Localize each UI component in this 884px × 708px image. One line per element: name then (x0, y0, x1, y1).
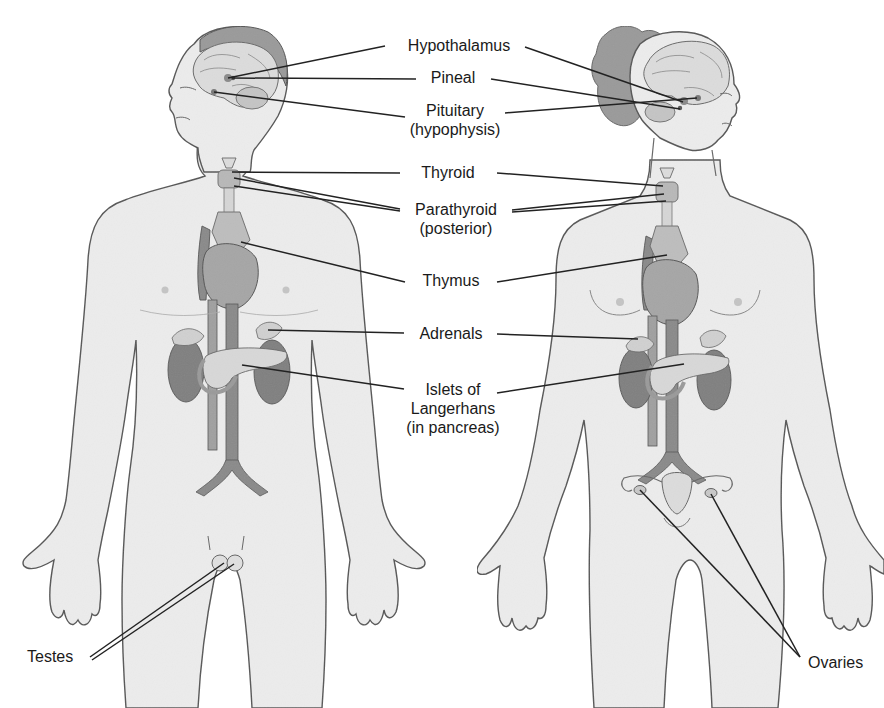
female-heart (643, 260, 699, 325)
endocrine-diagram: Hypothalamus Pineal Pituitary(hypophysis… (0, 0, 884, 708)
label-islets-of-langerhans: Islets ofLangerhans(in pancreas) (406, 380, 499, 437)
female-cerebellum (645, 102, 675, 122)
label-thymus: Thymus (423, 271, 480, 290)
female-trachea (662, 202, 672, 228)
leader-line-female-thyroid (497, 173, 663, 186)
label-adrenals: Adrenals (419, 324, 482, 343)
label-pineal: Pineal (431, 68, 475, 87)
male-trachea (224, 188, 234, 214)
leader-line-male-thyroid (232, 172, 400, 173)
label-hypothalamus: Hypothalamus (408, 36, 510, 55)
male-heart (203, 244, 259, 309)
label-ovaries: Ovaries (808, 653, 863, 672)
label-pituitary: Pituitary(hypophysis) (410, 101, 501, 139)
male-figure (23, 26, 425, 708)
male-testis-right (227, 555, 243, 571)
label-thyroid: Thyroid (421, 163, 474, 182)
label-parathyroid: Parathyroid(posterior) (415, 200, 497, 238)
female-ovary-right (705, 489, 717, 498)
female-figure (477, 26, 884, 708)
label-testes: Testes (27, 647, 73, 666)
leader-line-male-pineal (232, 78, 416, 79)
male-testis-left (212, 555, 228, 571)
